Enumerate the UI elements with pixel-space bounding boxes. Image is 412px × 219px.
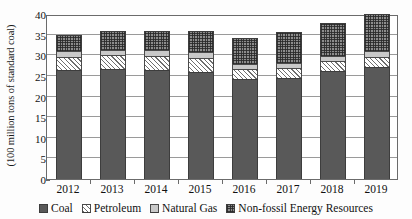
x-tick-label: 2016 [222, 183, 266, 196]
y-tick-label: 5 [24, 154, 46, 165]
bar-segment-non-fossil-energy-resources [100, 31, 126, 50]
bar-2019 [364, 14, 390, 179]
natural-gas-swatch [150, 204, 159, 213]
coal-swatch [39, 204, 48, 213]
bar-segment-non-fossil-energy-resources [320, 23, 346, 56]
bar-segment-non-fossil-energy-resources [276, 32, 302, 63]
bar-segment-non-fossil-energy-resources [188, 31, 214, 52]
x-tick-label: 2014 [134, 183, 178, 196]
bar-2016 [232, 38, 258, 179]
legend-label: Non-fossil Energy Resources [238, 202, 373, 214]
legend-item-non-fossil-energy-resources[interactable]: Non-fossil Energy Resources [226, 202, 373, 214]
y-tick-label: 10 [24, 133, 46, 144]
legend-label: Petroleum [94, 202, 141, 214]
x-tick-label: 2013 [90, 183, 134, 196]
legend-item-natural-gas[interactable]: Natural Gas [150, 202, 217, 214]
petroleum-swatch [82, 204, 91, 213]
non-fossil-swatch [226, 204, 235, 213]
bar-segment-coal [144, 70, 170, 179]
bar-segment-coal [364, 67, 390, 179]
x-tick-label: 2015 [178, 183, 222, 196]
y-tick-label: 40 [24, 10, 46, 21]
stacked-bar-chart: (100 million tons of standard coal) 0510… [0, 0, 412, 219]
bar-segment-petroleum [100, 55, 126, 69]
bar-segment-petroleum [144, 56, 170, 70]
bar-segment-petroleum [276, 68, 302, 77]
bar-segment-coal [56, 70, 82, 179]
y-axis-title-text: (100 million tons of standard coal) [5, 24, 16, 166]
y-tick-label: 15 [24, 113, 46, 124]
legend-item-petroleum[interactable]: Petroleum [82, 202, 141, 214]
bar-2013 [100, 31, 126, 179]
bar-segment-coal [276, 78, 302, 179]
bar-segment-non-fossil-energy-resources [364, 14, 390, 51]
y-tick-label: 0 [24, 175, 46, 186]
bar-segment-petroleum [364, 57, 390, 66]
bar-2017 [276, 32, 302, 179]
bar-segment-petroleum [56, 57, 82, 71]
legend-item-coal[interactable]: Coal [39, 202, 73, 214]
y-tick-label: 30 [24, 51, 46, 62]
bar-segment-non-fossil-energy-resources [232, 38, 258, 64]
plot-area [46, 15, 398, 180]
bar-2012 [56, 35, 82, 179]
y-axis-title: (100 million tons of standard coal) [0, 0, 20, 190]
bar-2014 [144, 31, 170, 179]
bar-segment-non-fossil-energy-resources [56, 35, 82, 52]
bar-segment-petroleum [232, 69, 258, 79]
x-tick-label: 2012 [46, 183, 90, 196]
x-tick-label: 2019 [354, 183, 398, 196]
y-tick-label: 35 [24, 30, 46, 41]
legend-label: Natural Gas [162, 202, 217, 214]
bar-segment-non-fossil-energy-resources [144, 31, 170, 51]
bar-segment-petroleum [320, 61, 346, 71]
bar-segment-coal [320, 71, 346, 179]
bar-segment-coal [232, 79, 258, 179]
y-tick-label: 25 [24, 71, 46, 82]
legend-label: Coal [51, 202, 73, 214]
bar-segment-coal [188, 72, 214, 179]
bar-segment-coal [100, 69, 126, 179]
chart-legend: CoalPetroleumNatural GasNon-fossil Energ… [0, 199, 412, 217]
y-tick-label: 20 [24, 92, 46, 103]
bar-2015 [188, 31, 214, 179]
y-axis-ticks: 0510152025303540 [18, 15, 46, 180]
x-tick-label: 2017 [266, 183, 310, 196]
bar-segment-petroleum [188, 58, 214, 72]
x-tick-label: 2018 [310, 183, 354, 196]
bar-2018 [320, 23, 346, 179]
